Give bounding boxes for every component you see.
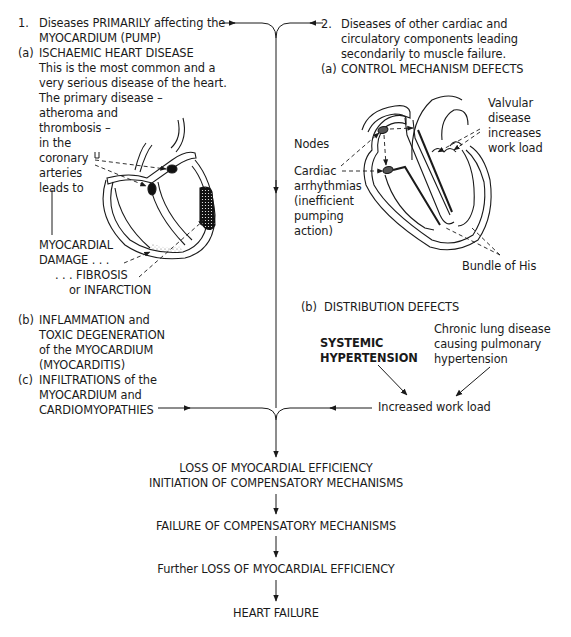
subsection-c-label: (c) [18, 373, 33, 388]
heading-1-line1: Diseases PRIMARILY affecting the [39, 16, 225, 31]
heading-2-line: Diseases of other cardiac and [341, 17, 507, 32]
conduction-heart-illustration [362, 96, 491, 250]
systemic-hypertension-label: HYPERTENSION [320, 351, 418, 366]
ischaemic-text-line: in the [39, 136, 71, 151]
bundle-of-his-label: Bundle of His [462, 259, 536, 274]
ischaemic-text-line: This is the most common and a [39, 61, 215, 76]
infiltration-line: CARDIOMYOPATHIES [39, 403, 154, 418]
ischaemic-text-line: leads to [39, 181, 84, 196]
ischaemic-text-line: atheroma and [39, 106, 118, 121]
damage-label: MYOCARDIAL [39, 238, 113, 253]
arrhythmia-label: Cardiac [294, 164, 336, 179]
chronic-lung-label: Chronic lung disease [434, 322, 551, 337]
fibrosis-label: . . . FIBROSIS [55, 268, 128, 283]
ischaemic-text-line: coronary [39, 151, 88, 166]
bottom-junction [158, 408, 372, 457]
heading-2-line: secondarily to muscle failure. [341, 47, 506, 62]
subsection-2b-label: (b) [301, 300, 317, 315]
flow-step-compensation-failure: FAILURE OF COMPENSATORY MECHANISMS [156, 519, 396, 534]
valvular-label: disease [488, 111, 531, 126]
chronic-lung-label: hypertension [434, 352, 508, 367]
infarction-label: or INFARCTION [69, 283, 151, 298]
infiltration-line: INFILTRATIONS of the [39, 373, 157, 388]
flow-step-loss-efficiency: LOSS OF MYOCARDIAL EFFICIENCY [179, 461, 372, 476]
heading-1-number: 1. [18, 16, 29, 31]
distribution-defects-title: DISTRIBUTION DEFECTS [324, 300, 459, 315]
control-defects-title: CONTROL MECHANISM DEFECTS [341, 62, 524, 77]
myocarditis-line: (MYOCARDITIS) [39, 358, 125, 373]
myocarditis-line: INFLAMMATION and [39, 313, 150, 328]
myocarditis-line: of the MYOCARDIUM [39, 343, 153, 358]
ischaemic-text-line: thrombosis – [39, 121, 111, 136]
ischaemic-pointers [95, 160, 204, 277]
nodes-label: Nodes [294, 137, 329, 152]
ischaemic-text-line: very serious disease of the heart. [39, 76, 227, 91]
ischaemic-text-line: arteries [39, 166, 82, 181]
heading-2-number: 2. [321, 17, 332, 32]
ischaemic-heart-illustration [103, 118, 215, 259]
chronic-lung-label: causing pulmonary [434, 337, 541, 352]
systemic-hypertension-label: SYSTEMIC [320, 336, 383, 351]
infiltration-line: MYOCARDIUM and [39, 388, 142, 403]
arrhythmia-label: pumping [294, 209, 344, 224]
valvular-label: Valvular [488, 96, 533, 111]
valvular-label: increases [488, 126, 541, 141]
subsection-a-label: (a) [18, 46, 34, 61]
arrhythmia-label: arrhythmias [294, 179, 362, 194]
distribution-arrows [378, 365, 490, 396]
increased-work-load-label: Increased work load [378, 400, 491, 415]
flow-step-initiation: INITIATION OF COMPENSATORY MECHANISMS [149, 476, 403, 491]
heading-1-line2: MYOCARDIUM (PUMP) [39, 31, 161, 46]
subsection-b-label: (b) [18, 313, 34, 328]
ischaemic-title: ISCHAEMIC HEART DISEASE [39, 46, 194, 61]
arrhythmia-label: action) [294, 224, 333, 239]
myocarditis-line: TOXIC DEGENERATION [39, 328, 165, 343]
arrhythmia-label: (inefficient [294, 194, 354, 209]
subsection-2a-label: (a) [321, 62, 337, 77]
damage-label: DAMAGE . . . [39, 253, 109, 268]
valvular-label: work load [488, 141, 543, 156]
heading-2-line: circulatory components leading [341, 32, 518, 47]
flow-step-heart-failure: HEART FAILURE [233, 606, 319, 621]
flow-step-further-loss: Further LOSS OF MYOCARDIAL EFFICIENCY [157, 562, 394, 577]
ischaemic-text-line: The primary disease – [39, 91, 162, 106]
